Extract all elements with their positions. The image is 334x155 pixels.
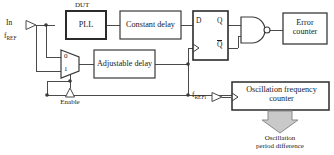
junction-enable-node	[68, 79, 72, 83]
osc-counter-label-line1: Oscillation frequency	[236, 85, 327, 94]
junction-clock-node	[186, 62, 190, 66]
input-port-triangle-in	[26, 21, 36, 30]
mux-input-label-1: 1	[64, 66, 68, 73]
diagram-canvas: In fREF DUT PLL Constant delay Adjustabl…	[0, 0, 334, 155]
qbar-text: Q	[217, 40, 222, 49]
down-block-arrow-icon	[262, 111, 298, 133]
qbar-overline-wrap: Q	[217, 41, 222, 49]
error-counter-label: Error counter	[283, 18, 327, 37]
dut-group-label: DUT	[75, 2, 89, 9]
osc-counter-label-line2: counter	[236, 94, 327, 103]
frefi-subscript: REFi	[195, 94, 206, 100]
input-label-frefi: fREFi	[192, 91, 206, 99]
nand-gate-bubble-icon	[264, 27, 270, 33]
junction-in-node	[44, 23, 48, 27]
pll-block-label: PLL	[66, 21, 106, 30]
input-label-in: In	[6, 19, 12, 27]
junction-bus-node	[186, 93, 190, 97]
ff-pin-label-qbar: Q	[217, 41, 222, 49]
nand-gate-body[interactable]	[241, 17, 265, 43]
fref-subscript: REF	[7, 35, 17, 41]
constant-delay-label: Constant delay	[120, 21, 181, 30]
input-label-fref: fREF	[4, 32, 16, 40]
enable-label: Enable	[52, 99, 88, 106]
adjustable-delay-label: Adjustable delay	[94, 60, 155, 69]
input-port-triangle-frefi	[212, 93, 222, 102]
output-annotation-line1: Oscillation	[230, 134, 330, 142]
output-annotation-line2: period difference	[230, 142, 330, 150]
error-counter-label-line2: counter	[283, 27, 327, 36]
ff-pin-label-d: D	[196, 17, 201, 25]
ff-pin-label-q: Q	[217, 17, 222, 25]
mux-input-label-0: 0	[64, 53, 68, 60]
junction-enable-bus-node	[45, 93, 49, 97]
error-counter-label-line1: Error	[283, 18, 327, 27]
output-annotation-label: Oscillation period difference	[230, 134, 330, 150]
qbar-overline	[217, 40, 222, 41]
osc-counter-label: Oscillation frequency counter	[236, 85, 327, 104]
input-port-triangle-enable	[66, 88, 75, 97]
